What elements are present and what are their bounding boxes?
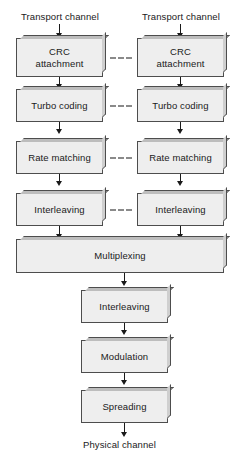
input-label-right: Transport channel	[130, 11, 232, 22]
box-crc-attachment-left[interactable]: CRC attachment	[16, 38, 103, 77]
box-label: Spreading	[100, 401, 148, 413]
box-spreading[interactable]: Spreading	[81, 390, 168, 423]
ellipsis-connector-turbo	[110, 105, 132, 107]
ellipsis-connector-crc	[110, 57, 132, 59]
box-label: Interleaving	[97, 301, 151, 313]
box-label: Rate matching	[147, 152, 214, 164]
box-label: Rate matching	[26, 152, 93, 164]
arrow-spreading-to-output	[120, 423, 129, 437]
box-label: Turbo coding	[29, 100, 89, 112]
box-rate-matching-left[interactable]: Rate matching	[16, 141, 103, 174]
arrow-rate-to-interleaving-left	[55, 174, 64, 186]
box-rate-matching-right[interactable]: Rate matching	[137, 141, 224, 174]
input-label-left: Transport channel	[9, 11, 111, 22]
arrow-turbo-to-rate-right	[176, 122, 185, 134]
box-interleaving-common[interactable]: Interleaving	[81, 290, 168, 323]
box-label: Turbo coding	[150, 100, 210, 112]
arrow-interleaving-to-modulation	[120, 323, 129, 335]
box-label: Interleaving	[32, 204, 86, 216]
arrow-turbo-to-rate-left	[55, 122, 64, 134]
box-interleaving-left[interactable]: Interleaving	[16, 193, 103, 226]
box-crc-attachment-right[interactable]: CRC attachment	[137, 38, 224, 77]
output-label: Physical channel	[62, 439, 177, 450]
ellipsis-connector-interleaving	[110, 209, 132, 211]
arrow-multiplexing-to-interleaving	[120, 273, 129, 286]
box-interleaving-right[interactable]: Interleaving	[137, 193, 224, 226]
box-label: Modulation	[99, 351, 150, 363]
box-label: Multiplexing	[92, 250, 147, 262]
box-multiplexing[interactable]: Multiplexing	[16, 239, 224, 273]
arrow-rate-to-interleaving-right	[176, 174, 185, 186]
flowchart-diagram: Transport channel Transport channel CRC …	[0, 0, 239, 457]
box-turbo-coding-right[interactable]: Turbo coding	[137, 89, 224, 122]
arrow-modulation-to-spreading	[120, 373, 129, 385]
ellipsis-connector-rate	[110, 157, 132, 159]
box-modulation[interactable]: Modulation	[81, 340, 168, 373]
box-label: CRC attachment	[155, 46, 207, 69]
box-label: Interleaving	[153, 204, 207, 216]
box-label: CRC attachment	[34, 46, 86, 69]
box-turbo-coding-left[interactable]: Turbo coding	[16, 89, 103, 122]
